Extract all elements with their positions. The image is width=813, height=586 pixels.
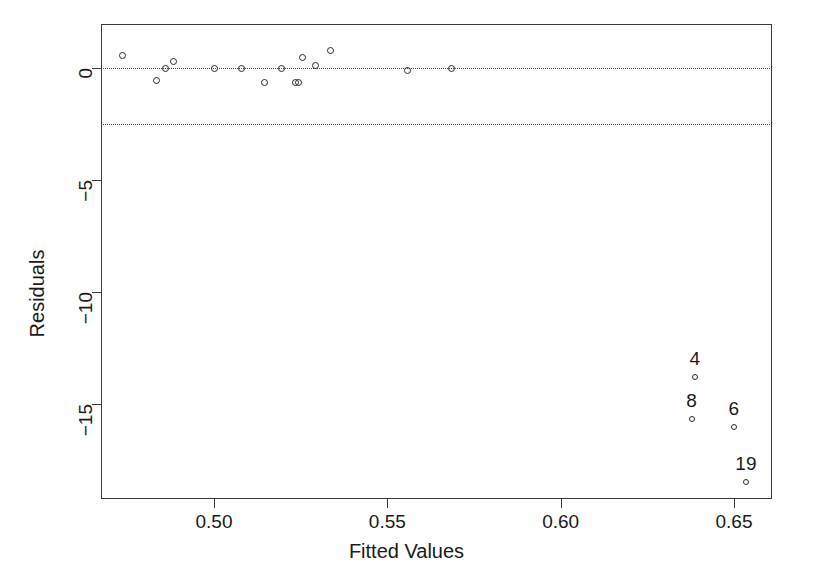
x-axis-tick (214, 499, 215, 508)
y-axis-tick-label: −15 (75, 404, 97, 436)
y-axis-tick-label: −5 (75, 180, 97, 202)
y-axis-title-text: Residuals (27, 249, 50, 337)
x-axis-tick-label: 0.55 (369, 511, 406, 533)
y-axis-tick-label: −10 (75, 292, 97, 324)
x-axis-tick (734, 499, 735, 508)
y-axis-tick-label: 0 (75, 68, 97, 79)
x-axis-tick (387, 499, 388, 508)
x-axis-tick (561, 499, 562, 508)
x-axis-tick-label: 0.60 (542, 511, 579, 533)
x-axis-title: Fitted Values (0, 540, 813, 563)
y-axis-title: Residuals (18, 0, 58, 586)
x-axis-tick-label: 0.65 (716, 511, 753, 533)
plot-frame (101, 24, 772, 499)
x-axis-tick-label: 0.50 (196, 511, 233, 533)
residuals-vs-fitted-chart: 48619 0.500.550.600.650−5−10−15 Fitted V… (0, 0, 813, 586)
